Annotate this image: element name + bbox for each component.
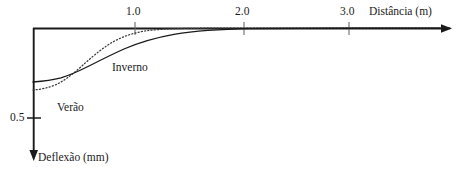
- plot-canvas: [0, 0, 459, 172]
- series-label-inverno: Inverno: [112, 62, 148, 74]
- curve-inverno: [33, 28, 450, 82]
- x-tick-label-1: 1.0: [126, 6, 140, 18]
- y-axis-title: Deflexão (mm): [38, 152, 109, 164]
- deflection-distance-figure: 1.0 2.0 3.0 0.5 Distância (m) Deflexão (…: [0, 0, 459, 172]
- series-label-verao: Verão: [57, 102, 84, 114]
- curve-verao: [33, 28, 450, 90]
- y-axis-group: [27, 28, 41, 161]
- y-axis-arrowhead: [29, 150, 38, 161]
- x-tick-label-3: 3.0: [340, 6, 354, 18]
- y-tick-label-1: 0.5: [10, 112, 24, 124]
- x-axis-title: Distância (m): [369, 6, 432, 18]
- x-tick-label-2: 2.0: [235, 6, 249, 18]
